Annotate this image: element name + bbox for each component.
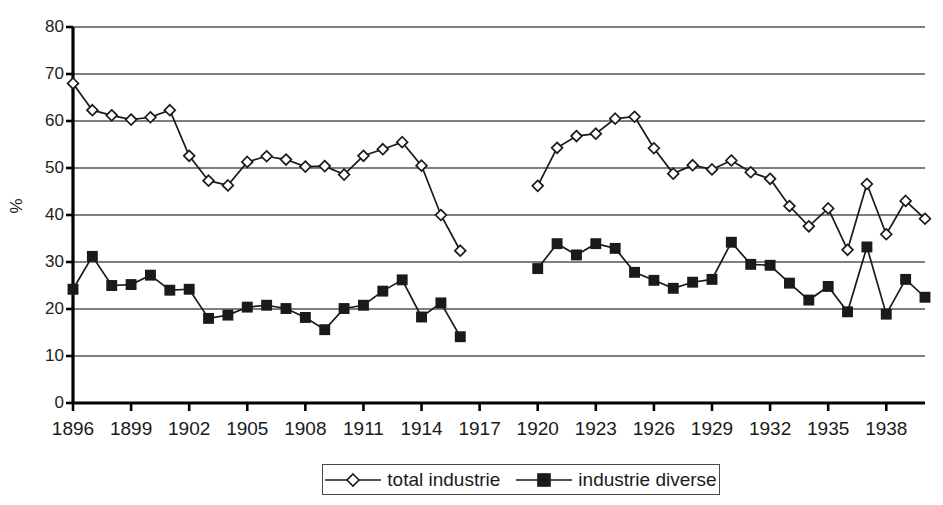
data-point xyxy=(88,252,97,261)
data-point xyxy=(243,303,252,312)
data-point xyxy=(301,313,310,322)
data-point xyxy=(688,278,697,287)
data-point xyxy=(456,332,465,341)
data-point xyxy=(146,271,155,280)
data-point xyxy=(300,161,311,172)
data-point xyxy=(669,284,678,293)
data-point xyxy=(533,264,542,273)
plot-area xyxy=(0,0,943,505)
data-point xyxy=(746,260,755,269)
data-point xyxy=(649,276,658,285)
data-point xyxy=(339,304,348,313)
data-point xyxy=(165,286,174,295)
data-point xyxy=(901,275,910,284)
data-point xyxy=(552,239,561,248)
data-point xyxy=(126,280,135,289)
data-point xyxy=(727,238,736,247)
square-filled-icon xyxy=(516,471,572,489)
data-point xyxy=(164,105,175,116)
data-point xyxy=(261,151,272,162)
data-point xyxy=(398,275,407,284)
data-point xyxy=(552,142,563,153)
data-point xyxy=(532,180,543,191)
data-point xyxy=(920,293,929,302)
data-point xyxy=(359,301,368,310)
data-point xyxy=(630,268,639,277)
data-point xyxy=(881,229,892,240)
data-point xyxy=(455,245,466,256)
data-point xyxy=(804,295,813,304)
data-point xyxy=(611,244,620,253)
legend-item-total-industrie[interactable]: total industrie xyxy=(325,469,500,491)
data-point xyxy=(707,164,718,175)
series-total-industrie xyxy=(68,78,931,256)
data-point xyxy=(862,179,873,190)
data-point xyxy=(378,287,387,296)
data-point xyxy=(765,261,774,270)
data-point xyxy=(436,210,447,221)
data-point xyxy=(591,239,600,248)
data-point xyxy=(106,110,117,121)
data-point xyxy=(320,325,329,334)
data-point xyxy=(726,155,737,166)
data-point xyxy=(882,310,891,319)
data-point xyxy=(687,160,698,171)
data-point xyxy=(319,161,330,172)
series-industrie-diverse xyxy=(68,238,929,342)
data-point xyxy=(126,114,137,125)
chart-container: % 80706050403020100 18961899190219051908… xyxy=(0,0,943,505)
data-point xyxy=(281,154,292,165)
data-point xyxy=(281,304,290,313)
data-point xyxy=(571,131,582,142)
legend-label-total-industrie: total industrie xyxy=(387,469,500,491)
data-point xyxy=(185,285,194,294)
axes xyxy=(66,27,925,411)
data-point xyxy=(68,285,77,294)
data-point xyxy=(862,242,871,251)
data-point xyxy=(842,244,853,255)
data-point xyxy=(765,173,776,184)
diamond-open-icon xyxy=(325,471,381,489)
data-point xyxy=(262,301,271,310)
chart-legend: total industrie industrie diverse xyxy=(322,464,720,495)
data-point xyxy=(785,279,794,288)
data-point xyxy=(824,282,833,291)
data-series-layer xyxy=(68,78,931,341)
data-point xyxy=(707,275,716,284)
legend-item-industrie-diverse[interactable]: industrie diverse xyxy=(516,469,716,491)
legend-label-industrie-diverse: industrie diverse xyxy=(578,469,716,491)
data-point xyxy=(436,298,445,307)
data-point xyxy=(417,312,426,321)
data-point xyxy=(223,311,232,320)
data-point xyxy=(107,281,116,290)
data-point xyxy=(204,314,213,323)
data-point xyxy=(843,307,852,316)
data-point xyxy=(377,144,388,155)
data-point xyxy=(572,250,581,259)
